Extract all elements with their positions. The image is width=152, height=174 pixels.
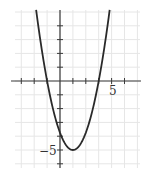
y-tick-label-neg5: −5 (39, 144, 57, 158)
grid (15, 10, 140, 168)
parabola-chart: 5 −5 (0, 0, 152, 174)
x-tick-label-5: 5 (109, 84, 117, 98)
